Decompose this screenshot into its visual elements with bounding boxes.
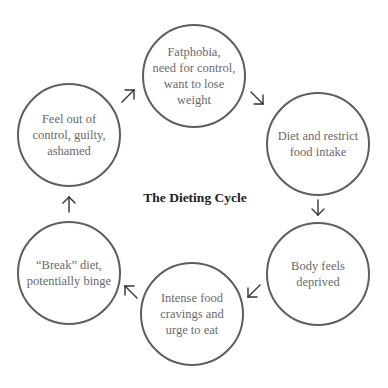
node-label: Feel out of control, guilty, ashamed [28, 111, 109, 159]
node-fatphobia: Fatphobia, need for control, want to los… [142, 24, 246, 128]
node-break: “Break” diet, potentially binge [17, 221, 121, 325]
node-label: “Break” diet, potentially binge [23, 257, 115, 289]
dieting-cycle-diagram: The Dieting Cycle Fatphobia, need for co… [0, 0, 388, 388]
node-cravings: Intense food cravings and urge to eat [140, 262, 244, 366]
node-label: Intense food cravings and urge to eat [156, 290, 228, 338]
arrow-down-left-icon [245, 282, 263, 300]
node-diet: Diet and restrict food intake [266, 92, 370, 196]
arrow-down-right-icon [248, 89, 266, 107]
node-guilt: Feel out of control, guilty, ashamed [17, 83, 121, 187]
node-label: Fatphobia, need for control, want to los… [149, 44, 240, 108]
node-deprived: Body feels deprived [266, 222, 370, 326]
arrow-up-icon [60, 195, 78, 213]
node-label: Body feels deprived [287, 258, 349, 290]
arrow-up-right-icon [119, 87, 137, 105]
diagram-title: The Dieting Cycle [130, 190, 260, 206]
arrow-down-icon [309, 199, 327, 217]
node-label: Diet and restrict food intake [274, 128, 363, 160]
arrow-up-left-icon [122, 283, 140, 301]
